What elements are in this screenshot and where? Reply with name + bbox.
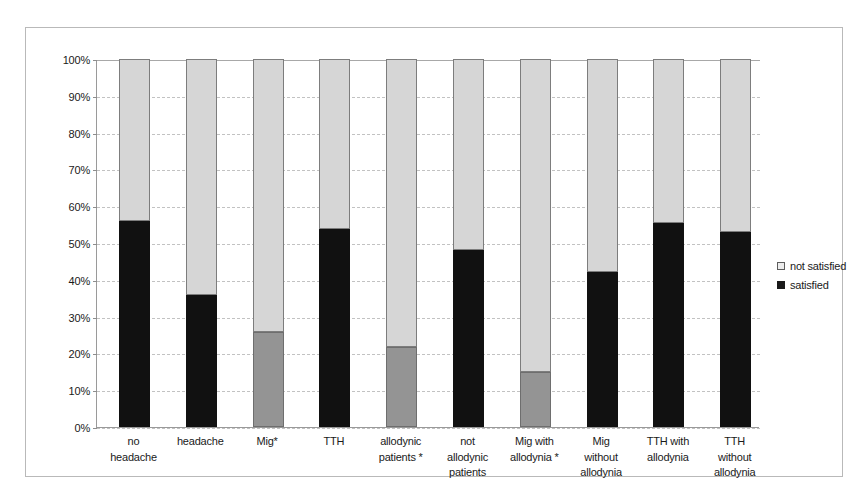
y-axis-tick-label: 40%: [69, 275, 90, 287]
y-tick-mark-0: [93, 428, 97, 429]
bar-4[interactable]: [319, 59, 350, 427]
y-axis-tick-label: 80%: [69, 128, 90, 140]
bar-segment-not-satisfied[interactable]: [520, 59, 551, 372]
plot-area: 0%10%20%30%40%50%60%70%80%90%100%: [96, 60, 759, 428]
x-axis-label-line: patients: [425, 465, 511, 481]
bar-6[interactable]: [453, 59, 484, 427]
chart-legend: not satisfiedsatisfied: [777, 256, 846, 294]
x-axis-label-line: TTH: [692, 434, 778, 450]
x-axis-label-line: allodynia: [558, 465, 644, 481]
bar-2[interactable]: [186, 59, 217, 427]
y-tick-mark-80: [93, 134, 97, 135]
bar-7[interactable]: [520, 59, 551, 427]
y-axis-tick-label: 100%: [63, 54, 90, 66]
legend-item-label: satisfied: [790, 279, 829, 291]
bar-segment-satisfied[interactable]: [720, 232, 751, 427]
x-axis-label-line: without: [692, 450, 778, 466]
bar-segment-not-satisfied[interactable]: [453, 59, 484, 250]
y-axis-tick-label: 90%: [69, 91, 90, 103]
y-tick-mark-30: [93, 318, 97, 319]
y-axis-tick-label: 70%: [69, 164, 90, 176]
bar-segment-satisfied[interactable]: [253, 332, 284, 427]
bar-5[interactable]: [386, 59, 417, 427]
bar-segment-not-satisfied[interactable]: [653, 59, 684, 223]
bar-segment-satisfied[interactable]: [186, 295, 217, 427]
bar-10[interactable]: [720, 59, 751, 427]
y-tick-mark-70: [93, 170, 97, 171]
bar-segment-satisfied[interactable]: [119, 221, 150, 427]
bar-9[interactable]: [653, 59, 684, 427]
y-axis-tick-label: 10%: [69, 385, 90, 397]
bar-segment-satisfied[interactable]: [319, 229, 350, 427]
bar-segment-not-satisfied[interactable]: [720, 59, 751, 232]
y-axis-tick-label: 0%: [75, 422, 91, 434]
x-axis-label-line: allodynia: [692, 465, 778, 481]
legend-swatch-icon: [777, 281, 785, 289]
y-axis-tick-label: 50%: [69, 238, 90, 250]
chart-frame: 0%10%20%30%40%50%60%70%80%90%100% nohead…: [25, 27, 843, 477]
bar-segment-satisfied[interactable]: [520, 372, 551, 427]
y-tick-mark-40: [93, 281, 97, 282]
bar-segment-not-satisfied[interactable]: [319, 59, 350, 229]
y-axis-tick-label: 60%: [69, 201, 90, 213]
y-tick-mark-20: [93, 354, 97, 355]
legend-item-label: not satisfied: [790, 260, 846, 272]
y-tick-mark-50: [93, 244, 97, 245]
y-tick-mark-100: [93, 60, 97, 61]
bar-segment-not-satisfied[interactable]: [587, 59, 618, 272]
x-axis-label-10: TTHwithoutallodynia: [692, 434, 778, 481]
y-tick-mark-10: [93, 391, 97, 392]
y-tick-mark-90: [93, 97, 97, 98]
gridline-0: [97, 428, 760, 429]
bar-segment-not-satisfied[interactable]: [386, 59, 417, 347]
bar-segment-not-satisfied[interactable]: [186, 59, 217, 295]
legend-item-light[interactable]: not satisfied: [777, 256, 846, 275]
bar-segment-satisfied[interactable]: [453, 250, 484, 427]
y-tick-mark-60: [93, 207, 97, 208]
y-axis-tick-label: 30%: [69, 312, 90, 324]
bar-1[interactable]: [119, 59, 150, 427]
bar-segment-satisfied[interactable]: [386, 347, 417, 427]
bar-segment-not-satisfied[interactable]: [119, 59, 150, 221]
bar-segment-satisfied[interactable]: [587, 272, 618, 427]
bar-segment-satisfied[interactable]: [653, 223, 684, 427]
bar-8[interactable]: [587, 59, 618, 427]
bar-segment-not-satisfied[interactable]: [253, 59, 284, 332]
x-axis-label-line: headache: [91, 450, 177, 466]
bar-3[interactable]: [253, 59, 284, 427]
legend-item-dark[interactable]: satisfied: [777, 275, 846, 294]
legend-swatch-icon: [777, 262, 785, 270]
y-axis-tick-label: 20%: [69, 348, 90, 360]
